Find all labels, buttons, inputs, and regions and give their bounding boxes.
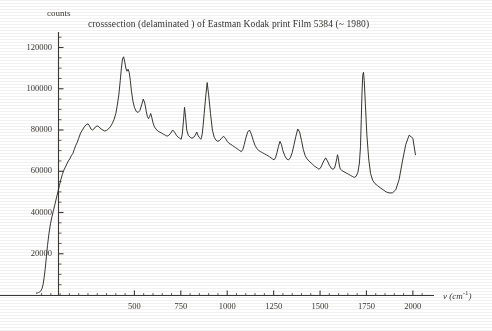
- x-tick-label: 2000: [393, 301, 433, 311]
- spectrum-figure: crosssection (delaminated ) of Eastman K…: [0, 0, 492, 331]
- x-tick-label: 500: [114, 301, 154, 311]
- x-tick-label: 1250: [254, 301, 294, 311]
- x-tick-label: 1000: [207, 301, 247, 311]
- spectrum-trace: [36, 57, 415, 293]
- y-tick-label: 80000: [0, 124, 52, 134]
- y-axis-ticks: [59, 37, 64, 285]
- y-tick-label: 120000: [0, 42, 52, 52]
- y-tick-label: 100000: [0, 83, 52, 93]
- x-tick-label: 1750: [346, 301, 386, 311]
- x-tick-label: 750: [161, 301, 201, 311]
- plot-canvas: [0, 0, 492, 331]
- y-tick-label: 40000: [0, 207, 52, 217]
- y-tick-label: 20000: [0, 248, 52, 258]
- y-tick-label: 60000: [0, 165, 52, 175]
- x-axis-ticks: [42, 291, 423, 296]
- x-tick-label: 1500: [300, 301, 340, 311]
